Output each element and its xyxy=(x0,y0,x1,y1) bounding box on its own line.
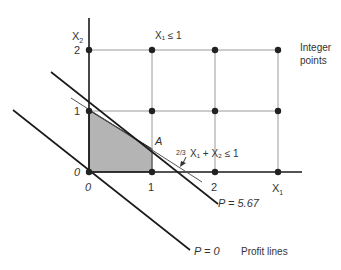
constraint-main-frac: 2/3 xyxy=(176,149,186,156)
origin-label-y: 0 xyxy=(74,166,81,178)
feasible-region xyxy=(89,110,152,172)
integer-points-label-line1: Integer xyxy=(300,42,332,53)
diagram-canvas: X2 2 1 0 0 1 2 X1 X₁ ≤ 1 Integer points … xyxy=(0,0,341,270)
constraint-main-label: X₁ + X₂ ≤ 1 xyxy=(190,148,239,159)
profit-lines-label: Profit lines xyxy=(241,246,288,257)
y-tick-1: 1 xyxy=(74,105,80,117)
integer-point xyxy=(149,108,155,114)
integer-point xyxy=(275,108,281,114)
integer-point xyxy=(149,47,155,53)
origin-label-x: 0 xyxy=(85,181,92,193)
integer-point xyxy=(275,169,281,175)
integer-point xyxy=(212,169,218,175)
y-tick-2: 2 xyxy=(74,44,80,56)
integer-point xyxy=(86,169,92,175)
profit-line-high xyxy=(51,72,218,204)
integer-point xyxy=(275,47,281,53)
y-axis-label: X2 xyxy=(72,30,83,44)
x-axis-label: X1 xyxy=(272,182,283,196)
profit-high-label: P = 5.67 xyxy=(218,197,260,209)
lp-integer-diagram: X2 2 1 0 0 1 2 X1 X₁ ≤ 1 Integer points … xyxy=(0,0,341,270)
x-tick-1: 1 xyxy=(148,181,154,193)
integer-points-label-line2: points xyxy=(300,55,327,66)
integer-point xyxy=(86,47,92,53)
point-a-label: A xyxy=(154,135,162,147)
integer-point xyxy=(212,47,218,53)
integer-point xyxy=(86,108,92,114)
integer-point xyxy=(212,108,218,114)
arrow-icon xyxy=(180,157,186,167)
profit-zero-label: P = 0 xyxy=(194,245,220,257)
integer-point xyxy=(149,169,155,175)
constraint-x1-label: X₁ ≤ 1 xyxy=(155,30,182,41)
x-tick-2: 2 xyxy=(211,181,217,193)
